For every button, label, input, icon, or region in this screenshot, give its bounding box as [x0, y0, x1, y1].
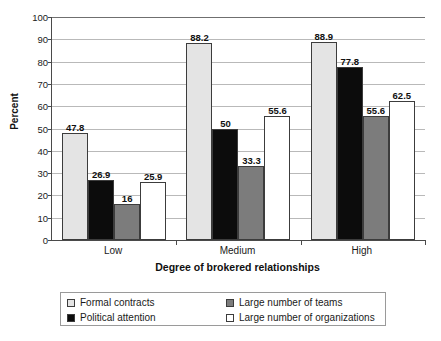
legend-label: Large number of teams: [239, 297, 342, 308]
bar: 55.6: [363, 116, 389, 240]
bar-value-label: 88.9: [315, 32, 334, 42]
y-axis-tick-label: 50: [37, 123, 48, 134]
x-axis-tick-mark: [301, 240, 302, 245]
y-axis-tick-label: 10: [37, 212, 48, 223]
bar-value-label: 25.9: [144, 172, 163, 182]
x-axis-tick-mark: [425, 240, 426, 245]
bar: 33.3: [238, 166, 264, 240]
x-axis-tick-label-high: High: [352, 245, 373, 256]
legend-column-left: Formal contractsPolitical attention: [67, 296, 156, 326]
bar-chart-figure: Percent 010203040506070809010047.826.916…: [0, 0, 441, 341]
bar-group: 88.25033.355.6: [176, 17, 300, 240]
legend-label: Formal contracts: [80, 297, 154, 308]
bar-value-label: 16: [122, 194, 133, 204]
bar-value-label: 88.2: [190, 33, 209, 43]
bar: 62.5: [389, 101, 415, 240]
x-axis-tick-label-low: Low: [104, 245, 122, 256]
bar: 77.8: [337, 67, 363, 240]
legend-label: Large number of organizations: [239, 312, 375, 323]
bar: 16: [114, 204, 140, 240]
bar: 88.9: [311, 42, 337, 240]
legend-item[interactable]: Large number of organizations: [226, 311, 375, 324]
bar-value-label: 62.5: [393, 91, 412, 101]
x-axis-tick-label-medium: Medium: [220, 245, 256, 256]
bar-group: 47.826.91625.9: [52, 17, 176, 240]
legend-swatch-icon: [67, 299, 75, 307]
y-axis-tick-mark: [48, 240, 52, 241]
y-axis-tick-label: 60: [37, 101, 48, 112]
bar-group: 88.977.855.662.5: [301, 17, 425, 240]
bar-value-label: 55.6: [367, 106, 386, 116]
plot-area: 010203040506070809010047.826.91625.988.2…: [51, 17, 425, 241]
bar: 47.8: [62, 133, 88, 240]
x-axis-tick-mark: [176, 240, 177, 245]
legend-swatch-icon: [226, 314, 234, 322]
bar: 50: [212, 129, 238, 241]
bar: 25.9: [140, 182, 166, 240]
bar: 88.2: [186, 43, 212, 240]
bar: 55.6: [264, 116, 290, 240]
legend-item[interactable]: Large number of teams: [226, 296, 375, 309]
legend-item[interactable]: Formal contracts: [67, 296, 156, 309]
bar-value-label: 26.9: [92, 170, 111, 180]
chart-legend: Formal contractsPolitical attention Larg…: [60, 292, 386, 326]
y-axis-tick-label: 70: [37, 78, 48, 89]
legend-swatch-icon: [67, 314, 75, 322]
bar-value-label: 77.8: [341, 57, 360, 67]
y-axis-tick-label: 0: [43, 235, 48, 246]
y-axis-tick-label: 40: [37, 145, 48, 156]
y-axis-tick-label: 80: [37, 56, 48, 67]
bar-value-label: 55.6: [268, 106, 287, 116]
y-axis-tick-label: 90: [37, 34, 48, 45]
bar: 26.9: [88, 180, 114, 240]
legend-item[interactable]: Political attention: [67, 311, 156, 324]
y-axis-tick-label: 20: [37, 190, 48, 201]
y-axis-tick-label: 30: [37, 168, 48, 179]
plot-inner: 010203040506070809010047.826.91625.988.2…: [52, 17, 425, 240]
legend-swatch-icon: [226, 299, 234, 307]
legend-column-right: Large number of teamsLarge number of org…: [226, 296, 375, 326]
y-axis-tick-label: 100: [32, 12, 48, 23]
bar-value-label: 33.3: [242, 156, 261, 166]
y-axis-title: Percent: [9, 72, 20, 152]
bar-value-label: 50: [220, 119, 231, 129]
legend-label: Political attention: [80, 312, 156, 323]
bar-value-label: 47.8: [66, 123, 85, 133]
x-axis-title: Degree of brokered relationships: [51, 261, 424, 273]
